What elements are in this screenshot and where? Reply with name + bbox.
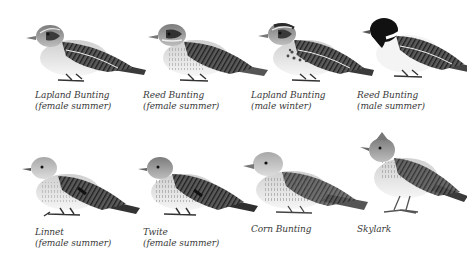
- caption-skylark: Skylark: [357, 224, 391, 235]
- bird-illustration-reed-bunting-male-summer: [360, 14, 467, 80]
- bird-name: Lapland Bunting: [35, 90, 111, 101]
- caption-reed-bunting-male-summer: Reed Bunting (male summer): [357, 90, 425, 112]
- bird-plumage: (female summer): [35, 101, 111, 112]
- caption-reed-bunting-female-summer: Reed Bunting (female summer): [143, 90, 219, 112]
- bird-name: Corn Bunting: [251, 224, 311, 235]
- bird-plumage: (female summer): [35, 238, 111, 249]
- bird-name: Reed Bunting: [143, 90, 219, 101]
- bird-name: Twite: [143, 227, 219, 238]
- bird-illustration-reed-bunting-female-summer: [144, 18, 270, 82]
- bird-illustration-corn-bunting: [240, 148, 370, 214]
- bird-illustration-linnet-female-summer: [20, 150, 144, 216]
- bird-name: Skylark: [357, 224, 391, 235]
- bird-illustration-lapland-bunting-female-summer: [22, 18, 150, 82]
- caption-corn-bunting: Corn Bunting: [251, 224, 311, 235]
- bird-plumage: (male winter): [251, 101, 326, 112]
- bird-illustration-skylark: [360, 130, 467, 216]
- bird-plumage: (female summer): [143, 238, 219, 249]
- caption-lapland-bunting-female-summer: Lapland Bunting (female summer): [35, 90, 111, 112]
- bird-name: Reed Bunting: [357, 90, 425, 101]
- caption-twite-female-summer: Twite (female summer): [143, 227, 219, 249]
- bird-name: Lapland Bunting: [251, 90, 326, 101]
- bird-plumage: (female summer): [143, 101, 219, 112]
- caption-lapland-bunting-male-winter: Lapland Bunting (male winter): [251, 90, 326, 112]
- caption-linnet-female-summer: Linnet (female summer): [35, 227, 111, 249]
- bird-name: Linnet: [35, 227, 111, 238]
- bird-plumage: (male summer): [357, 101, 425, 112]
